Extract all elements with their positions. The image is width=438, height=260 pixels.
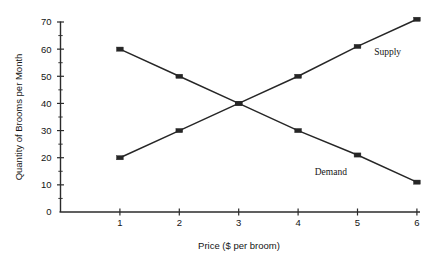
data-point-marker <box>295 128 302 132</box>
data-point-marker <box>414 180 421 184</box>
series-group <box>117 17 421 184</box>
y-axis-tick-label: 70 <box>41 16 52 27</box>
x-axis-tick-label: 3 <box>236 217 241 228</box>
x-axis-title: Price ($ per broom) <box>198 240 280 251</box>
y-axis-tick-label: 20 <box>41 152 52 163</box>
y-axis-tick-label-group: 010203040506070 <box>41 16 52 217</box>
data-point-marker <box>354 153 361 157</box>
data-point-marker <box>117 47 124 51</box>
series-line-supply <box>120 19 417 157</box>
data-point-marker <box>117 156 124 160</box>
y-axis-tick-label: 30 <box>41 125 52 136</box>
x-axis-tick-label: 4 <box>295 217 300 228</box>
supply-demand-chart: 010203040506070 123456 SupplyDemand Pric… <box>0 0 438 260</box>
x-axis-tick-label: 2 <box>177 217 182 228</box>
y-axis-tick-label: 10 <box>41 179 52 190</box>
y-axis-tick-label: 40 <box>41 98 52 109</box>
data-point-marker <box>414 17 421 21</box>
x-axis-tick-label: 5 <box>355 217 360 228</box>
series-label-supply: Supply <box>374 47 401 57</box>
series-label-demand: Demand <box>315 167 347 177</box>
x-axis-tick-label: 1 <box>117 217 122 228</box>
x-axis-tick-label-group: 123456 <box>117 217 419 228</box>
x-axis-tick-label: 6 <box>414 217 419 228</box>
data-point-marker <box>235 101 242 105</box>
y-axis-title: Quantity of Brooms per Month <box>13 54 24 181</box>
chart-canvas: 010203040506070 123456 SupplyDemand Pric… <box>0 0 438 260</box>
data-point-marker <box>354 44 361 48</box>
y-axis-tick-label: 50 <box>41 71 52 82</box>
y-axis-tick-label: 60 <box>41 44 52 55</box>
data-point-marker <box>176 128 183 132</box>
series-line-demand <box>120 49 417 182</box>
data-point-marker <box>295 74 302 78</box>
series-label-group: SupplyDemand <box>315 47 402 178</box>
y-axis-tick-label: 0 <box>46 206 51 217</box>
data-point-marker <box>176 74 183 78</box>
